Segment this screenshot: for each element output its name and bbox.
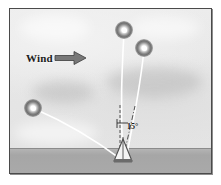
- balloon-upper-right: [135, 39, 153, 57]
- tether-lower-left: [35, 109, 122, 160]
- angle-label: 15°: [127, 123, 138, 131]
- wind-annotation: Wind: [26, 50, 88, 66]
- mast-base: [114, 159, 132, 163]
- balloon-core: [142, 46, 147, 51]
- tether-upper-right: [126, 50, 144, 159]
- wind-arrow-icon: [54, 50, 88, 66]
- balloon-core: [31, 106, 36, 111]
- balloon-core: [122, 28, 127, 33]
- wind-label: Wind: [26, 53, 53, 64]
- figure-frame: Wind 15°: [9, 8, 212, 174]
- balloon-upper-left: [115, 21, 133, 39]
- sky-background: Wind 15°: [10, 9, 211, 173]
- balloon-lower-left: [24, 99, 42, 117]
- scene-vector-layer: [10, 9, 211, 173]
- figure-root: Wind 15°: [0, 0, 221, 185]
